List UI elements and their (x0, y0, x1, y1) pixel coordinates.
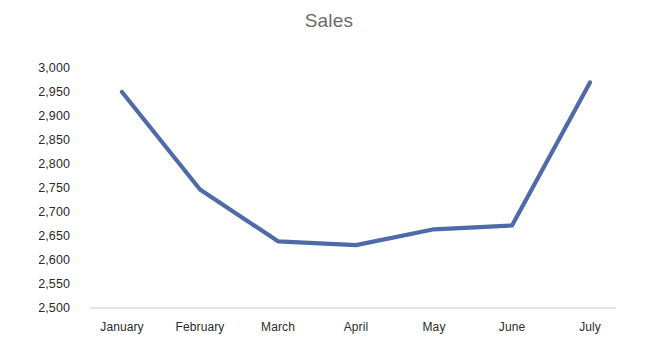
sales-line-chart: Sales 3,0002,9502,9002,8502,8002,7502,70… (0, 0, 658, 361)
series-line-sales (122, 82, 590, 245)
plot-area (0, 0, 658, 361)
plot-svg (0, 0, 658, 361)
